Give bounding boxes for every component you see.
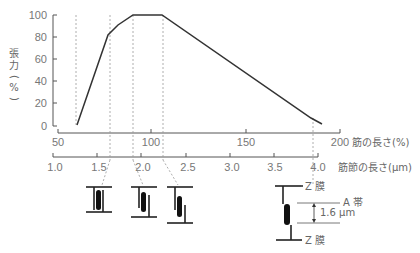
x-axis-sarcomere-length: 1.0 1.5 2.0 2.5 3.0 3.5 4.0 筋節の長さ(μm) [47,153,412,173]
x2-tick-1.5: 1.5 [91,161,106,173]
x2-tick-1.0: 1.0 [47,161,62,173]
z-membrane-bottom-label: Z 膜 [305,235,325,246]
y-tick-80: 80 [35,31,47,43]
y-tick-20: 20 [35,97,47,109]
x2-tick-3.5: 3.5 [267,161,282,173]
a-band-length-label: 1.6 μm [320,207,355,218]
x-tick-150: 150 [237,136,255,148]
y-tick-100: 100 [29,9,47,21]
y-axis-label: 張 力 ( % ) [9,48,20,101]
x-tick-50: 50 [52,136,64,148]
tension-curve [77,15,322,125]
svg-text:%: % [9,82,19,93]
y-axis: 100 80 60 40 20 0 [29,9,57,132]
svg-text:力: 力 [9,59,19,71]
svg-text:): ) [9,97,20,101]
svg-text:(: ( [9,75,20,79]
svg-text:張: 張 [9,48,19,59]
z-membrane-top-label: Z 膜 [305,181,325,192]
x-tick-100: 100 [142,136,160,148]
y-tick-60: 60 [35,53,47,65]
y-tick-0: 0 [41,120,47,132]
x-axis-label-muscle: 筋の長さ(%) [352,136,409,148]
sarcomere-diagram-2.0 [131,187,157,217]
x-tick-200: 200 [331,136,349,148]
x-axis-muscle-length: 50 100 150 200 筋の長さ(%) [52,129,410,148]
sarcomere-diagram-1.6 [86,187,112,212]
y-tick-40: 40 [35,75,47,87]
x-axis-label-sarcomere: 筋節の長さ(μm) [338,161,412,173]
x2-tick-3.0: 3.0 [224,161,239,173]
reference-lines [76,15,313,185]
sarcomere-diagram-2.2 [167,187,193,223]
x2-tick-2.5: 2.5 [180,161,195,173]
length-tension-diagram: 100 80 60 40 20 0 張 力 ( % ) 50 100 150 2… [0,0,420,253]
